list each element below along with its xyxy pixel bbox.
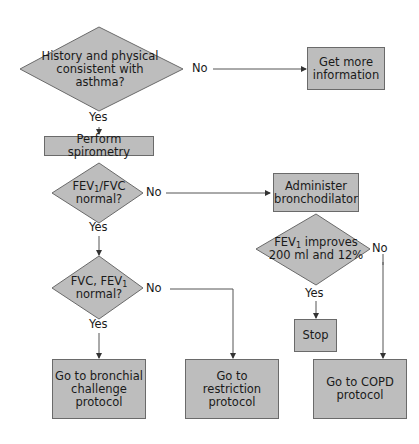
get-more-information-box: Get more information bbox=[307, 47, 385, 90]
bronchial-challenge-box: Go to bronchial challenge protocol bbox=[52, 359, 146, 419]
stop-box: Stop bbox=[294, 319, 337, 352]
decision-history-text: History and physical consistent with ast… bbox=[30, 52, 170, 86]
restriction-protocol-box: Go to restriction protocol bbox=[185, 359, 279, 419]
administer-bronchodilator-box: Administer bronchodilator bbox=[273, 173, 359, 212]
decision-fev-ratio-text: FEV1/FVC normal? bbox=[60, 176, 138, 210]
yes-label-fev-ratio: Yes bbox=[89, 221, 108, 234]
perform-spirometry-box: Perform spirometry bbox=[44, 136, 154, 156]
decision-fvc-text: FVC, FEV1 normal? bbox=[60, 271, 138, 305]
no-label-fev-improves: No bbox=[372, 242, 388, 255]
no-label-fvc: No bbox=[146, 282, 162, 295]
yes-label-history: Yes bbox=[89, 111, 108, 124]
yes-label-fvc: Yes bbox=[89, 318, 108, 331]
no-label-fev-ratio: No bbox=[146, 186, 162, 199]
yes-label-fev-improves: Yes bbox=[305, 287, 324, 300]
no-label-history: No bbox=[192, 62, 208, 75]
decision-fev-improves-text: FEV1 improves 200 ml and 12% bbox=[266, 232, 366, 266]
copd-protocol-box: Go to COPD protocol bbox=[313, 359, 407, 419]
